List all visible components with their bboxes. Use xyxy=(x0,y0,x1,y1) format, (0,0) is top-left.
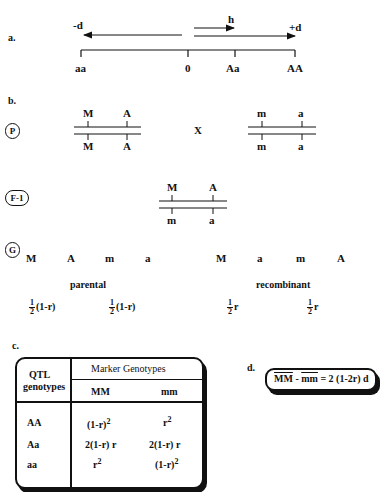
gamete1-frequency: 12(1-r) xyxy=(29,299,55,316)
row-header-line1: QTL xyxy=(29,369,50,380)
gamete4-qtl: A xyxy=(337,252,345,264)
gamete4-frequency: 12r xyxy=(307,299,318,316)
gamete2-qtl: a xyxy=(145,252,151,264)
gamete3-marker: M xyxy=(216,252,226,264)
p1-top-qtl: A xyxy=(123,107,131,119)
mean-mm: mm xyxy=(301,373,318,384)
row-Aa-label: Aa xyxy=(27,439,39,450)
p2-top-qtl: a xyxy=(298,107,304,119)
mean-MM: MM xyxy=(274,373,293,384)
p1-bottom-marker: M xyxy=(83,140,93,152)
gamete3-qtl: a xyxy=(257,252,263,264)
row-Aa-MM: 2(1-r) r xyxy=(85,439,116,450)
f1-bottom-qtl: a xyxy=(209,214,215,226)
gamete1-marker: M xyxy=(26,252,36,264)
column-group-header: Marker Genotypes xyxy=(91,363,166,374)
chromosome-diagrams xyxy=(0,100,390,260)
row-aa-MM: r2 xyxy=(93,457,101,470)
p2-top-marker: m xyxy=(257,107,266,119)
column-mm: mm xyxy=(161,386,178,397)
gamete4-marker: m xyxy=(296,252,305,264)
row-header-line2: genotypes xyxy=(23,381,65,392)
tick-AA: AA xyxy=(287,62,303,74)
p2-bottom-marker: m xyxy=(257,140,266,152)
f1-bottom-marker: m xyxy=(167,214,176,226)
dominance-axis-diagram xyxy=(0,0,390,80)
p2-bottom-qtl: a xyxy=(298,140,304,152)
gamete2-frequency: 12(1-r) xyxy=(109,299,135,316)
row-AA-label: AA xyxy=(27,417,41,428)
genotype-frequency-table: QTL genotypes Marker Genotypes MM mm AA … xyxy=(15,357,204,489)
row-AA-MM: (1-r)2 xyxy=(87,417,110,430)
row-aa-label: aa xyxy=(27,459,37,470)
f1-top-qtl: A xyxy=(209,181,217,193)
panel-d-label: d. xyxy=(247,362,255,373)
gamete1-qtl: A xyxy=(67,252,75,264)
marker-difference-equation: MM - mm = 2 (1-2r) d xyxy=(265,368,377,391)
p1-bottom-qtl: A xyxy=(123,140,131,152)
tick-Aa: Aa xyxy=(226,62,239,74)
row-AA-mm: r2 xyxy=(163,415,171,428)
row-aa-mm: (1-r)2 xyxy=(155,457,178,470)
column-MM: MM xyxy=(91,386,110,397)
row-Aa-mm: 2(1-r) r xyxy=(149,439,180,450)
recombinant-label: recombinant xyxy=(256,279,310,290)
panel-c-label: c. xyxy=(12,340,19,351)
tick-zero: 0 xyxy=(185,62,191,74)
parental-label: parental xyxy=(70,279,106,290)
gamete2-marker: m xyxy=(105,252,114,264)
tick-aa: aa xyxy=(75,62,86,74)
f1-top-marker: M xyxy=(167,181,177,193)
gamete3-frequency: 12r xyxy=(227,299,238,316)
p1-top-marker: M xyxy=(83,107,93,119)
